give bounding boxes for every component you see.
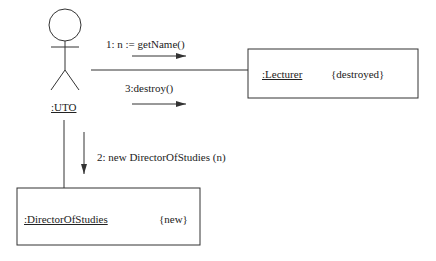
object-lecturer-name: :Lecturer [262, 68, 302, 80]
object-lecturer-constraint: {destroyed} [331, 68, 384, 80]
message-1-label: 1: n := getName() [106, 38, 185, 50]
message-3-label: 3:destroy() [125, 82, 173, 94]
actor-uto-stick-figure [49, 9, 81, 90]
actor-uto-label: :UTO [51, 101, 90, 113]
object-director-name: :DirectorOfStudies [24, 213, 108, 225]
object-director-constraint: {new} [159, 213, 188, 225]
message-2-label: 2: new DirectorOfStudies (n) [97, 151, 226, 163]
